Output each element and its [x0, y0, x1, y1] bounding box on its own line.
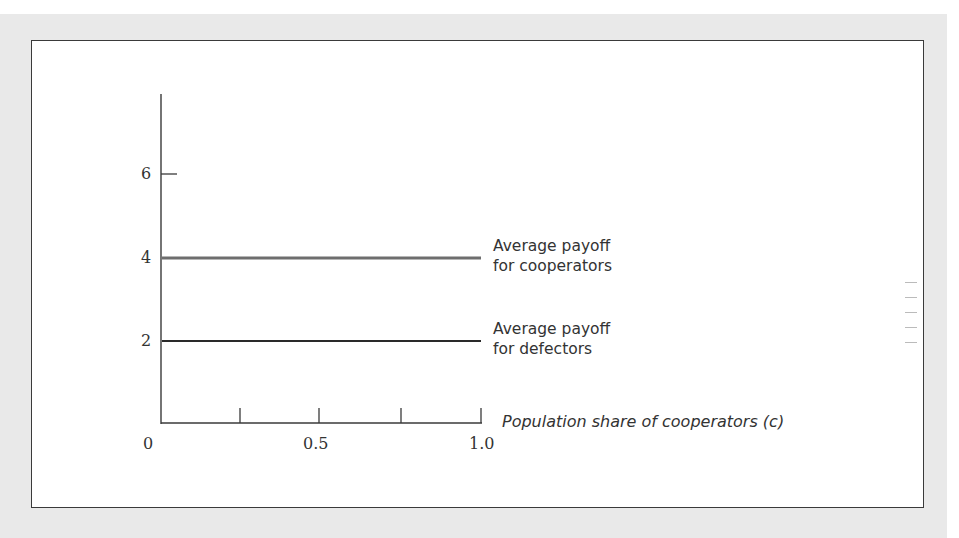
- x-tick-label-0: 0: [143, 436, 153, 452]
- x-axis-title: Population share of cooperators (c): [502, 412, 784, 431]
- x-tick-label-1.0: 1.0: [469, 436, 494, 452]
- cooperators-series-label: Average payoff for cooperators: [493, 236, 612, 276]
- y-tick-label-2: 2: [141, 333, 151, 349]
- x-tick-label-0.5: 0.5: [303, 436, 328, 452]
- defectors-label-line1: Average payoff: [493, 319, 610, 339]
- defectors-label-line2: for defectors: [493, 339, 610, 359]
- cooperators-label-line2: for cooperators: [493, 256, 612, 276]
- cooperators-label-line1: Average payoff: [493, 236, 612, 256]
- y-tick-label-4: 4: [141, 250, 151, 266]
- margin-marks: [905, 282, 917, 357]
- defectors-series-label: Average payoff for defectors: [493, 319, 610, 359]
- chart-plot-area: [0, 0, 959, 538]
- y-tick-label-6: 6: [141, 166, 151, 182]
